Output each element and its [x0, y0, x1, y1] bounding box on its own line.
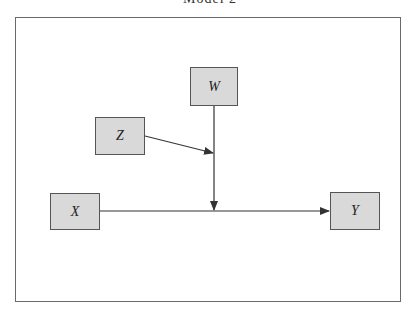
node-y-label: Y [351, 203, 359, 219]
node-z: Z [95, 117, 145, 155]
node-z-label: Z [116, 128, 124, 144]
edges-layer [0, 0, 418, 318]
node-y: Y [330, 192, 380, 230]
edge-z-to-w-path [145, 136, 213, 153]
node-w-label: W [208, 79, 220, 95]
node-w: W [190, 67, 238, 106]
node-x-label: X [71, 204, 80, 220]
node-x: X [50, 193, 100, 230]
